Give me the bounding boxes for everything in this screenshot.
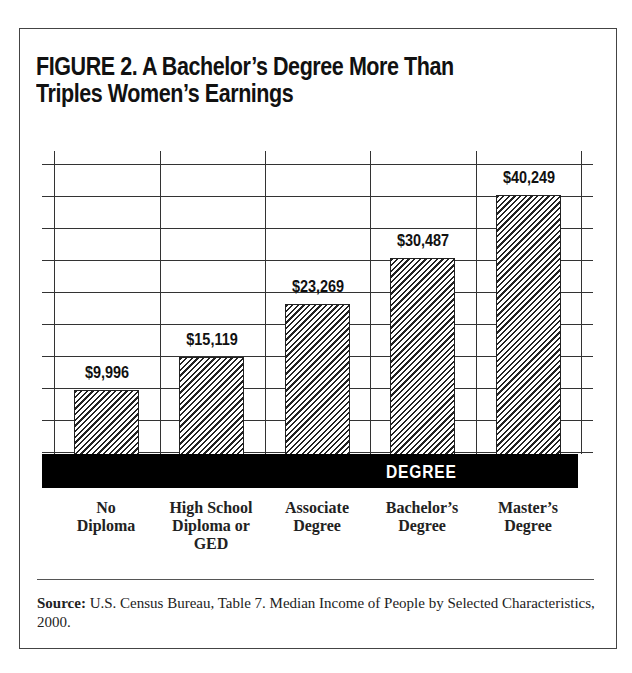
- x-axis-category-label: High SchoolDiploma orGED: [156, 499, 266, 553]
- gridline-vertical: [370, 151, 371, 454]
- bar-value-label: $15,119: [169, 330, 254, 350]
- source-text: U.S. Census Bureau, Table 7. Median Inco…: [37, 595, 595, 630]
- category-label-line: Associate: [262, 499, 372, 517]
- bar: [390, 258, 455, 455]
- category-label-line: Bachelor’s: [367, 499, 477, 517]
- x-axis-category-label: Master’sDegree: [473, 499, 583, 535]
- source-note: Source: U.S. Census Bureau, Table 7. Med…: [37, 594, 597, 632]
- gridline-vertical: [160, 151, 161, 454]
- category-label-line: Degree: [262, 517, 372, 535]
- x-axis-band: [42, 454, 578, 488]
- category-label-line: Master’s: [473, 499, 583, 517]
- bar: [496, 195, 561, 455]
- bar-value-label: $40,249: [486, 168, 571, 188]
- x-axis-category-label: AssociateDegree: [262, 499, 372, 535]
- bar-value-label: $30,487: [380, 231, 465, 251]
- category-label-line: High School: [156, 499, 266, 517]
- category-label-line: No: [51, 499, 161, 517]
- source-divider: [37, 579, 594, 580]
- category-label-line: GED: [156, 535, 266, 553]
- gridline-vertical: [54, 151, 55, 454]
- x-axis-category-label: Bachelor’sDegree: [367, 499, 477, 535]
- x-axis-category-label: NoDiploma: [51, 499, 161, 535]
- source-label: Source:: [37, 595, 86, 611]
- gridline-vertical: [581, 151, 582, 454]
- gridline-horizontal: [42, 164, 593, 165]
- category-label-line: Diploma: [51, 517, 161, 535]
- bar-value-label: $9,996: [64, 363, 149, 383]
- bar: [179, 357, 244, 455]
- gridline-vertical: [265, 151, 266, 454]
- x-axis-title: DEGREE: [386, 461, 457, 483]
- bar-value-label: $23,269: [275, 277, 360, 297]
- bar: [74, 390, 139, 455]
- chart-plot-area: $9,996$15,119$23,269$30,487$40,249: [0, 0, 632, 673]
- category-label-line: Degree: [473, 517, 583, 535]
- category-label-line: Degree: [367, 517, 477, 535]
- gridline-vertical: [476, 151, 477, 454]
- bar: [285, 304, 350, 455]
- category-label-line: Diploma or: [156, 517, 266, 535]
